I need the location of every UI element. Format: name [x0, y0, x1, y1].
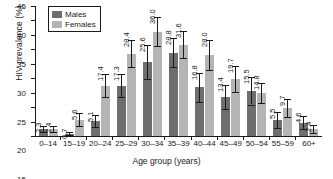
y-tick-label: 30	[17, 88, 26, 97]
bar-value-label: 16.8	[190, 65, 199, 80]
bar-females: 17.4	[101, 6, 110, 136]
error-bar-cap	[196, 102, 203, 103]
bar-males: 25.6	[143, 6, 152, 136]
error-bar-cap	[92, 127, 99, 128]
y-tick-label: 45	[17, 2, 26, 11]
error-bar	[199, 73, 200, 102]
bar-males: 5.5	[273, 6, 282, 136]
hiv-prevalence-bar-chart: HIV prevalence (%) Age group (years) 051…	[0, 0, 333, 179]
bar-group: 16.828.0	[192, 6, 218, 136]
bar-group: 13.419.7	[218, 6, 244, 136]
error-bar-cap	[232, 92, 239, 93]
x-tick-label: 35–39	[165, 139, 191, 148]
error-bar-cap	[170, 67, 177, 68]
y-axis-title: HIV prevalence (%)	[14, 0, 24, 93]
bar-females: 19.7	[231, 6, 240, 136]
error-bar-cap	[274, 128, 281, 129]
error-bar-cap	[154, 46, 161, 47]
bar-males: 4.6	[299, 6, 308, 136]
error-bar	[183, 31, 184, 58]
bar-value-label: 31.6	[174, 23, 183, 38]
bar-value-label: 15.5	[242, 69, 251, 84]
bar-females: 9.7	[283, 6, 292, 136]
error-bar-cap	[144, 79, 151, 80]
bar-group: 15.514.8	[244, 6, 270, 136]
bar-value-label: 5.6	[70, 110, 79, 120]
x-tick-label: 60+	[296, 139, 322, 148]
legend-item-males: Males	[52, 9, 96, 19]
error-bar	[209, 40, 210, 71]
bar-value-label: 17.3	[112, 67, 121, 82]
bar-females: 28.4	[127, 6, 136, 136]
y-tick-label: 25	[17, 117, 26, 126]
bar-value-label: 13.4	[216, 78, 225, 93]
bar-value-label: 28.0	[200, 32, 209, 47]
bar-value-label: 28.4	[122, 32, 131, 47]
bar-females: 14.8	[257, 6, 266, 136]
error-bar-cap	[118, 97, 125, 98]
x-tick-label: 50–54	[244, 139, 270, 148]
error-bar	[277, 112, 278, 128]
error-bar-cap	[128, 67, 135, 68]
bar-value-label: 5.5	[268, 109, 277, 119]
legend-label-males: Males	[65, 10, 86, 19]
legend-item-females: Females	[52, 19, 96, 29]
x-tick-label: 0–14	[35, 139, 61, 148]
bar-value-label: 17.4	[96, 67, 105, 82]
bar-females: 31.6	[179, 6, 188, 136]
y-tick: 0	[31, 136, 35, 137]
error-bar-cap	[310, 133, 317, 134]
x-tick-label: 20–24	[87, 139, 113, 148]
x-tick-label: 55–59	[270, 139, 296, 148]
x-tick-label: 30–34	[139, 139, 165, 148]
bar-value-label: 19.7	[226, 58, 235, 73]
error-bar-cap	[76, 126, 83, 127]
x-axis-tick-labels: 0–1415–1920–2425–2930–3435–3940–4445–495…	[35, 139, 322, 148]
error-bar	[235, 66, 236, 91]
bar-value-label: 28.8	[164, 30, 173, 45]
x-tick-label: 25–29	[113, 139, 139, 148]
y-tick-label: 15	[17, 175, 26, 179]
error-bar	[173, 38, 174, 67]
error-bar-cap	[180, 58, 187, 59]
error-bar	[225, 85, 226, 109]
bar-group: 17.328.4	[113, 6, 139, 136]
error-bar	[147, 45, 148, 79]
bar-value-label: 2.4	[44, 122, 53, 132]
bar-group: 25.636.0	[139, 6, 165, 136]
y-tick-label: 40	[17, 30, 26, 39]
bar-value-label: 25.6	[138, 37, 147, 52]
bar-value-label: 2.4	[304, 122, 313, 132]
error-bar-cap	[222, 109, 229, 110]
chart-legend: Males Females	[48, 6, 101, 32]
x-tick-label: 15–19	[61, 139, 87, 148]
error-bar	[313, 125, 314, 133]
x-axis-line	[35, 136, 322, 137]
bar-value-label: 2.3	[34, 122, 43, 132]
bar-group: 28.831.6	[165, 6, 191, 136]
bar-males: 15.5	[247, 6, 256, 136]
bar-females: 2.4	[309, 6, 318, 136]
error-bar	[287, 99, 288, 117]
error-bar-cap	[284, 117, 291, 118]
error-bar-cap	[258, 103, 265, 104]
bar-females: 36.0	[153, 6, 162, 136]
bar-value-label: 14.8	[252, 75, 261, 90]
x-tick-label: 45–49	[218, 139, 244, 148]
x-tick-label: 40–44	[192, 139, 218, 148]
legend-swatch-females	[52, 21, 62, 28]
legend-swatch-males	[52, 11, 62, 18]
error-bar	[261, 83, 262, 103]
bar-value-label: 9.7	[278, 95, 287, 105]
bar-group: 4.62.4	[296, 6, 322, 136]
bar-females: 28.0	[205, 6, 214, 136]
y-tick-label: 20	[17, 146, 26, 155]
bar-value-label: 4.6	[294, 112, 303, 122]
bar-group: 5.59.7	[270, 6, 296, 136]
bar-value-label: 0.7	[60, 129, 69, 139]
y-tick-label: 35	[17, 59, 26, 68]
bar-value-label: 36.0	[148, 9, 157, 24]
bar-value-label: 5.1	[86, 111, 95, 121]
bar-males: 17.3	[117, 6, 126, 136]
x-axis-title: Age group (years)	[0, 156, 333, 166]
